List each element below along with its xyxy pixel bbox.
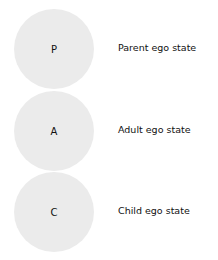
child-circle: C	[14, 172, 94, 252]
parent-label: Parent ego state	[118, 42, 196, 54]
parent-circle: P	[14, 9, 94, 89]
child-letter: C	[51, 207, 58, 218]
child-label: Child ego state	[118, 205, 190, 217]
adult-label: Adult ego state	[118, 124, 191, 136]
adult-circle: A	[14, 91, 94, 171]
parent-letter: P	[51, 44, 57, 55]
adult-letter: A	[51, 126, 58, 137]
